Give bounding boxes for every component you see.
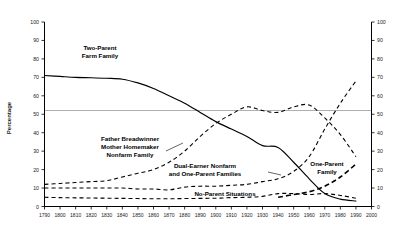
annotation-line-1: One-Parent <box>310 160 343 167</box>
x-tick-label: 1930 <box>257 212 268 218</box>
annotation-line-2: and One-Parent Families <box>169 170 242 177</box>
x-tick-label: 2000 <box>366 212 377 218</box>
x-tick-label: 1880 <box>179 212 190 218</box>
y-tick-label: 60 <box>33 93 39 99</box>
annotation-line-1: Father Breadwinner <box>101 135 160 142</box>
y-tick-label-right: 0 <box>377 204 380 210</box>
x-tick-label: 1990 <box>350 212 361 218</box>
y-axis-title: Percentage <box>6 101 12 134</box>
annotation-line-2: Mother Homemaker <box>101 143 159 150</box>
chart-container: 0102030405060708090100 01020304050607080… <box>0 0 398 232</box>
y-tick-label: 10 <box>33 185 39 191</box>
x-tick-label: 1810 <box>70 212 81 218</box>
y-tick-label: 20 <box>33 167 39 173</box>
annotation-line-1: No-Parent Situations <box>194 190 256 197</box>
x-tick-label: 1870 <box>164 212 175 218</box>
y-tick-label: 100 <box>30 19 39 25</box>
x-tick-label: 1950 <box>288 212 299 218</box>
y-tick-label-right: 60 <box>377 93 383 99</box>
x-tick-label: 1920 <box>241 212 252 218</box>
y-tick-label: 80 <box>33 56 39 62</box>
y-tick-label: 40 <box>33 130 39 136</box>
x-tick-label: 1940 <box>273 212 284 218</box>
annotation-line-1: Two-Parent <box>83 44 116 51</box>
line-chart: 0102030405060708090100 01020304050607080… <box>0 0 398 232</box>
y-tick-label-right: 100 <box>377 19 386 25</box>
annotation-line-1: Dual-Earner Nonfarm <box>174 162 237 169</box>
y-tick-label: 90 <box>33 37 39 43</box>
annotation-line-3: Nonfarm Family <box>107 151 154 158</box>
annotation-line-2: Family <box>317 168 337 175</box>
annotation-father-breadwinner: Father Breadwinner Mother Homemaker Nonf… <box>101 135 160 158</box>
y-tick-label: 30 <box>33 148 39 154</box>
x-tick-label: 1790 <box>39 212 50 218</box>
x-tick-label: 1840 <box>117 212 128 218</box>
annotation-line-2: Farm Family <box>82 52 119 59</box>
annotation-dual-earner: Dual-Earner Nonfarm and One-Parent Famil… <box>169 162 242 177</box>
x-tick-label: 1980 <box>335 212 346 218</box>
x-tick-label: 1910 <box>226 212 237 218</box>
x-tick-label: 1850 <box>132 212 143 218</box>
x-tick-label: 1900 <box>210 212 221 218</box>
x-tick-label: 1800 <box>55 212 66 218</box>
x-tick-label: 1960 <box>304 212 315 218</box>
annotation-no-parent: No-Parent Situations <box>194 190 256 197</box>
annotation-two-parent-farm: Two-Parent Farm Family <box>82 44 119 59</box>
y-tick-label-right: 70 <box>377 74 383 80</box>
y-tick-label: 0 <box>36 204 39 210</box>
y-tick-label-right: 90 <box>377 37 383 43</box>
y-tick-label-right: 80 <box>377 56 383 62</box>
y-tick-label: 70 <box>33 74 39 80</box>
y-tick-label-right: 50 <box>377 111 383 117</box>
x-tick-label: 1820 <box>86 212 97 218</box>
x-tick-label: 1970 <box>319 212 330 218</box>
y-tick-label-right: 10 <box>377 185 383 191</box>
x-tick-label: 1830 <box>101 212 112 218</box>
y-tick-label: 50 <box>33 111 39 117</box>
y-tick-label-right: 30 <box>377 148 383 154</box>
y-tick-label-right: 20 <box>377 167 383 173</box>
x-tick-label: 1860 <box>148 212 159 218</box>
y-tick-label-right: 40 <box>377 130 383 136</box>
x-tick-label: 1890 <box>195 212 206 218</box>
